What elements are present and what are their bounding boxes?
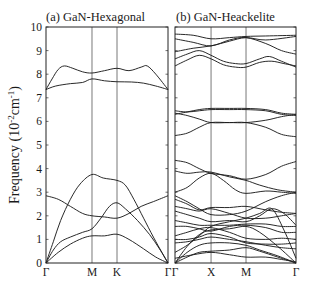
x-tick-label: Γ (293, 266, 300, 278)
phonon-branch-acoustic-2 (175, 243, 296, 263)
x-tick-label: K (113, 266, 122, 278)
y-tick-label: 1 (36, 233, 42, 245)
y-tick-label: 7 (36, 92, 42, 104)
phonon-branch-low-10 (175, 227, 296, 239)
x-tick-label: Γ (43, 266, 50, 278)
panel-hexagonal: (a) GaN-Hexagonal ΓMKΓ (43, 10, 172, 278)
panel-title: (b) GaN-Heackelite (176, 10, 275, 24)
phonon-branch-optical-low-1 (46, 196, 168, 219)
phonon-branch-mid-3 (175, 113, 296, 123)
phonon-branch-hi-5 (175, 55, 296, 67)
y-tick-label: 8 (36, 68, 42, 80)
phonon-branch-hi-4 (175, 51, 296, 68)
phonon-branch-optical-high-1 (46, 79, 168, 90)
phonon-branch-low-5 (175, 199, 296, 213)
y-tick-label: 10 (31, 21, 43, 33)
y-tick-label: 3 (36, 186, 42, 198)
phonon-dispersion-chart: Frequency (10-2cm-1) 012345678910 (a) Ga… (0, 0, 309, 285)
panel-title: (a) GaN-Hexagonal (46, 10, 145, 24)
x-tick-label: M (87, 266, 97, 278)
panel-frame (46, 27, 168, 263)
y-tick-label: 2 (36, 210, 42, 222)
y-tick-label: 6 (36, 115, 42, 127)
x-tick-label: X (207, 266, 216, 278)
phonon-branch-acoustic-1 (46, 234, 168, 263)
y-axis-ticks: 012345678910 (31, 21, 297, 269)
phonon-branch-optical-high-2 (46, 66, 168, 90)
x-tick-label: M (241, 266, 251, 278)
phonon-branch-low-3 (175, 173, 296, 193)
y-tick-label: 4 (36, 163, 42, 175)
x-tick-label: Γ (172, 266, 179, 278)
phonon-branch-low-2 (175, 171, 296, 192)
phonon-branch-acoustic-3 (46, 174, 168, 263)
svg-text:Frequency (10-2cm-1): Frequency (10-2cm-1) (6, 86, 23, 204)
phonon-branch-low-1 (175, 160, 296, 179)
phonon-branch-low-11 (175, 234, 296, 245)
phonon-branch-mid-4 (175, 122, 296, 137)
y-tick-label: 0 (36, 257, 42, 269)
y-tick-label: 9 (36, 45, 42, 57)
x-tick-label: Γ (165, 266, 172, 278)
y-tick-label: 5 (36, 139, 42, 151)
panel-heackelite: (b) GaN-Heackelite ΓXMΓ (172, 10, 300, 278)
y-axis-label: Frequency (10-2cm-1) (6, 86, 23, 204)
